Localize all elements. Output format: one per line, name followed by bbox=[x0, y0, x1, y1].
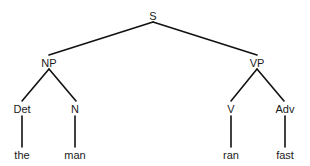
tree-edges bbox=[0, 0, 310, 166]
leaf-the: the bbox=[14, 150, 29, 161]
leaf-fast: fast bbox=[276, 150, 294, 161]
node-det: Det bbox=[13, 104, 30, 115]
edge-vp-adv bbox=[257, 69, 284, 101]
edge-np-det bbox=[22, 69, 49, 101]
edge-s-vp bbox=[153, 22, 257, 55]
edge-vp-v bbox=[231, 69, 257, 101]
edge-np-n bbox=[49, 69, 76, 101]
leaf-man: man bbox=[64, 150, 85, 161]
syntax-tree-diagram: S NP VP Det N V Adv the man ran fast bbox=[0, 0, 310, 166]
edge-s-np bbox=[49, 22, 153, 55]
node-adv: Adv bbox=[276, 104, 295, 115]
node-v: V bbox=[227, 104, 234, 115]
node-s: S bbox=[149, 11, 156, 22]
leaf-ran: ran bbox=[223, 150, 239, 161]
node-vp: VP bbox=[250, 58, 265, 69]
node-np: NP bbox=[41, 58, 56, 69]
node-n: N bbox=[71, 104, 79, 115]
